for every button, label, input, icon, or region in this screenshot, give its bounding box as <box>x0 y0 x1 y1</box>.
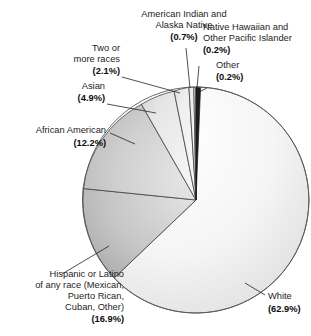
label-other: Other (0.2%) <box>216 60 243 82</box>
label-hispanic-line2: of any race (Mexican, <box>35 280 124 290</box>
label-asian: Asian (4.9%) <box>78 81 105 103</box>
pie-chart-svg: American Indian and Alaska Native (0.7%)… <box>0 0 311 336</box>
leader-native-hawaiian <box>197 66 199 88</box>
pie-chart-figure: American Indian and Alaska Native (0.7%)… <box>0 0 311 336</box>
label-hispanic-line1: Hispanic or Latino <box>50 269 124 279</box>
label-african-american-line1: African American <box>36 125 106 135</box>
label-african-american: African American (12.2%) <box>36 125 106 148</box>
label-other-pct: (0.2%) <box>216 72 243 82</box>
label-hispanic-pct: (16.9%) <box>91 314 124 324</box>
label-white-line1: White <box>268 291 292 301</box>
label-two-or-more-pct: (2.1%) <box>93 66 120 76</box>
label-asian-line1: Asian <box>82 81 105 91</box>
label-hispanic-line4: Cuban, Other) <box>65 302 124 312</box>
label-american-indian-line1: American Indian and <box>141 9 226 19</box>
label-two-or-more-line1: Two or <box>92 43 120 53</box>
label-two-or-more-races: Two or more races (2.1%) <box>74 43 121 76</box>
label-american-indian-pct: (0.7%) <box>170 32 197 42</box>
label-asian-pct: (4.9%) <box>78 93 105 103</box>
label-native-hawaiian-line2: Other Pacific Islander <box>203 33 292 43</box>
label-african-american-pct: (12.2%) <box>73 138 106 148</box>
label-hispanic-line3: Puerto Rican, <box>68 291 124 301</box>
label-white: White (62.9%) <box>268 291 301 314</box>
label-native-hawaiian-pacific-islander: Native Hawaiian and Other Pacific Island… <box>203 22 292 55</box>
label-hispanic-latino: Hispanic or Latino of any race (Mexican,… <box>35 269 124 324</box>
leader-american-indian <box>186 48 190 88</box>
label-two-or-more-line2: more races <box>74 54 121 64</box>
label-white-pct: (62.9%) <box>268 304 301 314</box>
label-native-hawaiian-line1: Native Hawaiian and <box>203 22 288 32</box>
label-native-hawaiian-pct: (0.2%) <box>203 45 230 55</box>
leader-two-or-more <box>122 77 180 93</box>
label-other-line1: Other <box>216 60 239 70</box>
